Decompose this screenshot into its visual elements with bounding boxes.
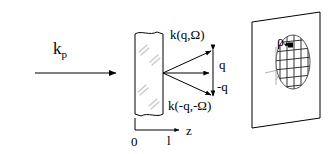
diagram-canvas — [0, 0, 334, 154]
axis-thickness-label: l — [167, 134, 171, 147]
incident-wave-symbol: k — [53, 39, 62, 58]
axis-origin-label: 0 — [131, 135, 138, 148]
momentum-down-label: -q — [217, 80, 228, 93]
scattering-diagram: kp k(q,Ω) k(-q,-Ω) q -q z 0 l ρ — [0, 0, 334, 154]
scattered-ray-up — [163, 51, 211, 73]
screen-position-label: ρ — [277, 35, 284, 49]
scattered-ray-down — [163, 73, 211, 95]
scattering-medium-slab — [135, 32, 163, 116]
momentum-up-label: q — [219, 58, 226, 71]
scattered-down-label: k(-q,-Ω) — [168, 99, 211, 112]
scattered-up-label: k(q,Ω) — [170, 28, 205, 41]
incident-wave-subscript: p — [62, 48, 68, 60]
axis-z-label: z — [186, 124, 192, 137]
incident-wave-label: kp — [53, 40, 67, 60]
z-axis — [135, 118, 179, 130]
speckle-point-marker — [288, 43, 293, 48]
